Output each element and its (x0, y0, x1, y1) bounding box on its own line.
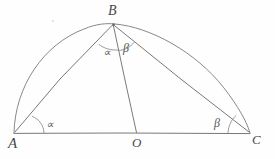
vertex-label-o: O (132, 136, 141, 149)
geometry-diagram-canvas: A B C O ∝ ∝ β β (0, 0, 275, 159)
segment-ac-baseline (14, 133, 250, 134)
angle-label-beta-at-b: β (123, 42, 129, 54)
segment-bc-chord (115, 26, 249, 132)
vertex-label-a: A (8, 136, 17, 151)
angle-label-beta-at-c: β (214, 117, 220, 129)
paper-speck (52, 20, 54, 22)
angle-arc-at-a (33, 117, 45, 133)
angle-label-alpha-at-b: ∝ (103, 47, 111, 58)
segment-ab-chord (15, 26, 112, 133)
vertex-dot-b (112, 23, 115, 26)
vertex-label-c: C (252, 133, 261, 146)
angle-label-alpha-at-a: ∝ (46, 119, 54, 130)
vertex-label-b: B (108, 4, 117, 18)
angle-arc-at-c (228, 116, 236, 133)
